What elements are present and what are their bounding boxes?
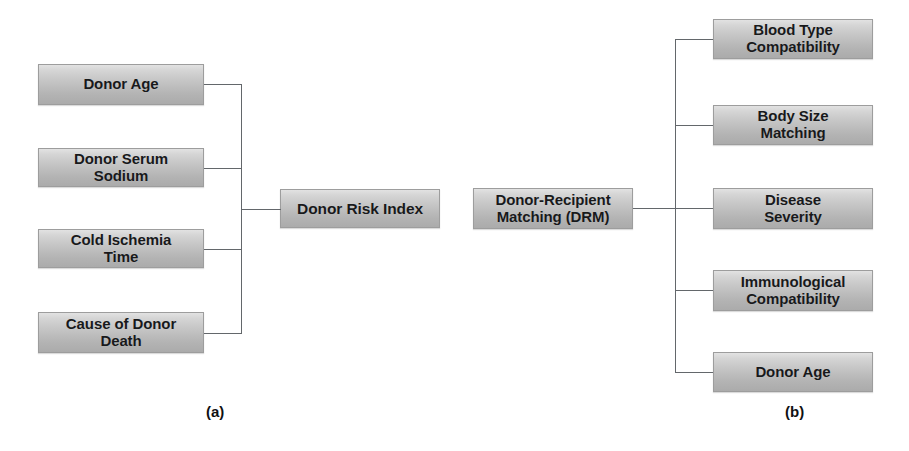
panel-b-hub-donor-recipient-matching[interactable]: Donor-Recipient Matching (DRM) bbox=[473, 188, 633, 229]
panel-b-factor-donor-age[interactable]: Donor Age bbox=[713, 352, 873, 392]
panel-b-connector-spine bbox=[675, 39, 676, 373]
panel-a-factor-donor-age[interactable]: Donor Age bbox=[38, 64, 204, 105]
panel-a-connector-hub-link bbox=[241, 209, 281, 210]
panel-a-connector-stub-2 bbox=[204, 168, 242, 169]
panel-b-connector-stub-5 bbox=[675, 372, 713, 373]
panel-a-factor-cold-ischemia-time[interactable]: Cold Ischemia Time bbox=[38, 229, 204, 268]
panel-a-factor-donor-serum-sodium-label: Donor Serum Sodium bbox=[45, 151, 197, 185]
panel-b-factor-blood-type-compatibility[interactable]: Blood Type Compatibility bbox=[713, 19, 873, 59]
panel-b-factor-body-size-matching[interactable]: Body Size Matching bbox=[713, 105, 873, 145]
panel-a-factor-cold-ischemia-time-label: Cold Ischemia Time bbox=[45, 232, 197, 266]
panel-b-factor-blood-type-compatibility-label: Blood Type Compatibility bbox=[720, 22, 866, 56]
panel-b-connector-stub-3 bbox=[675, 208, 713, 209]
panel-b-factor-body-size-matching-label: Body Size Matching bbox=[720, 108, 866, 142]
panel-b-factor-donor-age-label: Donor Age bbox=[720, 364, 866, 381]
panel-b-factor-immunological-compatibility[interactable]: Immunological Compatibility bbox=[713, 270, 873, 311]
panel-b-factor-disease-severity[interactable]: Disease Severity bbox=[713, 188, 873, 229]
panel-a-connector-stub-3 bbox=[204, 249, 242, 250]
panel-a-factor-cause-of-donor-death-label: Cause of Donor Death bbox=[45, 316, 197, 350]
panel-b-factor-disease-severity-label: Disease Severity bbox=[720, 192, 866, 226]
panel-b-connector-stub-1 bbox=[675, 39, 713, 40]
panel-a-factor-cause-of-donor-death[interactable]: Cause of Donor Death bbox=[38, 312, 204, 353]
panel-a-connector-stub-1 bbox=[204, 84, 242, 85]
panel-a-factor-donor-age-label: Donor Age bbox=[45, 76, 197, 93]
panel-a-caption: (a) bbox=[206, 403, 224, 420]
figure-root: Donor Age Donor Serum Sodium Cold Ischem… bbox=[0, 0, 909, 451]
panel-a-factor-donor-serum-sodium[interactable]: Donor Serum Sodium bbox=[38, 148, 204, 187]
panel-b-connector-stub-4 bbox=[675, 290, 713, 291]
panel-a-connector-stub-4 bbox=[204, 333, 242, 334]
panel-b-hub-label: Donor-Recipient Matching (DRM) bbox=[480, 192, 626, 226]
panel-b-connector-stub-2 bbox=[675, 125, 713, 126]
panel-b-caption: (b) bbox=[785, 403, 804, 420]
panel-b-factor-immunological-compatibility-label: Immunological Compatibility bbox=[720, 274, 866, 308]
panel-b-connector-hub-link bbox=[633, 208, 675, 209]
panel-a-hub-donor-risk-index[interactable]: Donor Risk Index bbox=[280, 189, 440, 228]
panel-a-hub-label: Donor Risk Index bbox=[287, 200, 433, 217]
